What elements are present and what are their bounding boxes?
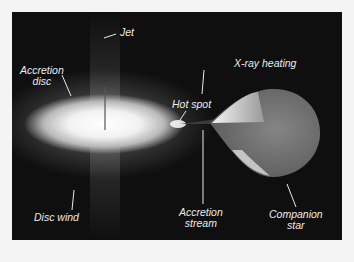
label-companion-star-line2: star [269,220,323,231]
accretion-disc [24,94,184,154]
label-accretion-disc-line2: disc [20,76,64,87]
companion-star [210,89,320,177]
xray-heated-face [212,92,264,123]
binary-system-illustration [12,12,342,240]
label-companion-star: Companion star [269,209,323,231]
label-accretion-disc: Accretion disc [20,65,64,87]
label-accretion-stream-line2: stream [179,218,223,229]
diagram-panel: Jet Accretion disc X-ray heating Hot spo… [12,12,342,240]
label-jet: Jet [120,27,134,38]
label-xray-heating: X-ray heating [234,58,296,69]
label-disc-wind: Disc wind [34,212,79,223]
label-accretion-stream: Accretion stream [179,207,223,229]
label-hot-spot: Hot spot [172,99,211,110]
